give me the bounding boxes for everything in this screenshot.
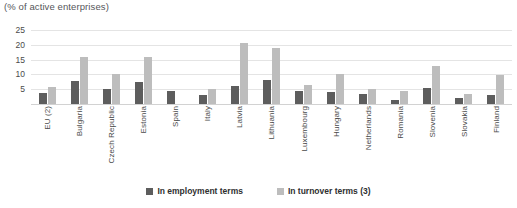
bar-turnover[interactable] bbox=[304, 85, 312, 104]
bar-pair bbox=[295, 30, 312, 104]
bar-employment[interactable] bbox=[391, 100, 399, 104]
x-label-cell: Estonia bbox=[127, 106, 159, 168]
bar-pair bbox=[199, 30, 216, 104]
bar-employment[interactable] bbox=[103, 89, 111, 104]
plot-area bbox=[31, 30, 512, 104]
bar-group bbox=[288, 30, 320, 104]
bar-group bbox=[384, 30, 416, 104]
bar-pair bbox=[455, 30, 472, 104]
bar-turnover[interactable] bbox=[240, 43, 248, 104]
bar-employment[interactable] bbox=[359, 94, 367, 104]
bar-group bbox=[480, 30, 512, 104]
x-axis-label: Slovakia bbox=[459, 106, 468, 137]
x-label-cell: Luxembourg bbox=[288, 106, 320, 168]
y-tick-label: 15 bbox=[16, 55, 25, 65]
bar-chart: (% of active enterprises) 510152025 EU (… bbox=[0, 0, 517, 208]
bar-turnover[interactable] bbox=[144, 57, 152, 104]
bar-turnover[interactable] bbox=[112, 74, 120, 104]
chart-title: (% of active enterprises) bbox=[4, 1, 109, 12]
x-axis-label: Romania bbox=[395, 106, 404, 139]
bar-turnover[interactable] bbox=[48, 87, 56, 104]
x-label-cell: Slovenia bbox=[416, 106, 448, 168]
bar-employment[interactable] bbox=[135, 82, 143, 104]
bar-turnover[interactable] bbox=[464, 94, 472, 104]
x-axis-label: Bulgaria bbox=[75, 106, 84, 136]
legend-item[interactable]: In employment terms bbox=[146, 186, 243, 196]
y-tick-label: 20 bbox=[16, 40, 25, 50]
bar-pair bbox=[487, 30, 504, 104]
bar-group bbox=[416, 30, 448, 104]
bar-group bbox=[352, 30, 384, 104]
legend-swatch-icon bbox=[277, 188, 284, 195]
bar-pair bbox=[167, 30, 184, 104]
bar-pair bbox=[359, 30, 376, 104]
x-axis-label: Lithuania bbox=[267, 106, 276, 139]
gridline-0 bbox=[31, 104, 512, 105]
bar-employment[interactable] bbox=[423, 88, 431, 104]
bar-pair bbox=[327, 30, 344, 104]
bar-employment[interactable] bbox=[199, 95, 207, 104]
bar-turnover[interactable] bbox=[432, 66, 440, 104]
bar-employment[interactable] bbox=[487, 95, 495, 104]
bar-group bbox=[448, 30, 480, 104]
legend-swatch-icon bbox=[146, 188, 153, 195]
y-tick-label: 5 bbox=[20, 84, 25, 94]
bar-group bbox=[31, 30, 63, 104]
bar-employment[interactable] bbox=[231, 86, 239, 104]
bar-turnover[interactable] bbox=[400, 91, 408, 104]
bar-employment[interactable] bbox=[295, 91, 303, 104]
y-axis: 510152025 bbox=[0, 30, 28, 104]
x-axis-label: Latvia bbox=[235, 106, 244, 128]
x-axis-label: Estonia bbox=[139, 106, 148, 133]
bar-pair bbox=[103, 30, 120, 104]
x-label-cell: Italy bbox=[191, 106, 223, 168]
bar-pair bbox=[135, 30, 152, 104]
x-axis-label: Slovenia bbox=[427, 106, 436, 138]
x-axis-label: Spain bbox=[171, 106, 180, 127]
x-label-cell: Finland bbox=[480, 106, 512, 168]
legend-item[interactable]: In turnover terms (3) bbox=[277, 186, 371, 196]
bar-employment[interactable] bbox=[327, 92, 335, 104]
bar-turnover[interactable] bbox=[80, 57, 88, 104]
bar-employment[interactable] bbox=[39, 93, 47, 104]
bar-group bbox=[63, 30, 95, 104]
x-axis-label: Luxembourg bbox=[299, 106, 308, 151]
bar-employment[interactable] bbox=[455, 98, 463, 105]
bar-group bbox=[191, 30, 223, 104]
bar-pair bbox=[39, 30, 56, 104]
x-label-cell: Bulgaria bbox=[63, 106, 95, 168]
bar-group bbox=[95, 30, 127, 104]
bar-turnover[interactable] bbox=[496, 75, 504, 104]
bar-pair bbox=[423, 30, 440, 104]
x-axis-label: Italy bbox=[203, 106, 212, 121]
bar-pair bbox=[231, 30, 248, 104]
bar-group bbox=[159, 30, 191, 104]
y-tick-label: 10 bbox=[16, 69, 25, 79]
x-axis: EU (2)BulgariaCzech RepublicEstoniaSpain… bbox=[31, 106, 512, 168]
bar-group bbox=[255, 30, 287, 104]
bar-employment[interactable] bbox=[263, 80, 271, 104]
x-axis-label: EU (2) bbox=[43, 106, 52, 130]
x-axis-label: Netherlands bbox=[363, 106, 372, 150]
bar-group bbox=[320, 30, 352, 104]
bar-group bbox=[223, 30, 255, 104]
bar-employment[interactable] bbox=[167, 91, 175, 104]
bar-group bbox=[127, 30, 159, 104]
bar-turnover[interactable] bbox=[336, 74, 344, 104]
x-label-cell: Hungary bbox=[320, 106, 352, 168]
bar-pair bbox=[391, 30, 408, 104]
x-label-cell: Slovakia bbox=[448, 106, 480, 168]
legend-label: In employment terms bbox=[157, 186, 243, 196]
x-axis-label: Czech Republic bbox=[107, 106, 116, 163]
bar-employment[interactable] bbox=[71, 81, 79, 104]
x-axis-label: Hungary bbox=[331, 106, 340, 137]
x-label-cell: Lithuania bbox=[255, 106, 287, 168]
bar-turnover[interactable] bbox=[368, 89, 376, 104]
bar-pair bbox=[71, 30, 88, 104]
x-axis-label: Finland bbox=[491, 106, 500, 133]
bar-groups bbox=[31, 30, 512, 104]
bar-turnover[interactable] bbox=[208, 89, 216, 104]
x-label-cell: Romania bbox=[384, 106, 416, 168]
bar-pair bbox=[263, 30, 280, 104]
bar-turnover[interactable] bbox=[272, 48, 280, 104]
